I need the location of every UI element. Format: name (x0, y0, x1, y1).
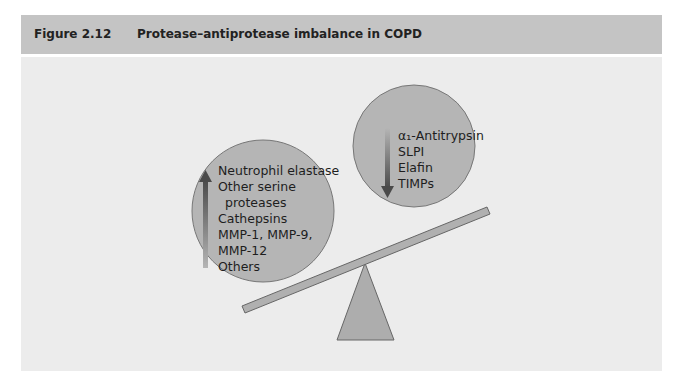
balance-diagram: Neutrophil elastase Other serine proteas… (0, 0, 679, 392)
protease-label-3: Cathepsins (218, 211, 287, 226)
protease-label-2: proteases (225, 195, 286, 210)
fulcrum-triangle (337, 263, 394, 340)
protease-label-4: MMP-1, MMP-9, (218, 227, 313, 242)
protease-label-6: Others (218, 259, 260, 274)
antiprotease-label-1: SLPI (398, 144, 424, 159)
protease-label-1: Other serine (218, 179, 296, 194)
protease-label-5: MMP-12 (218, 243, 267, 258)
protease-label-0: Neutrophil elastase (218, 163, 340, 178)
antiprotease-label-0: α₁-Antitrypsin (398, 128, 484, 143)
antiprotease-label-2: Elafin (398, 160, 433, 175)
antiprotease-label-3: TIMPs (397, 176, 434, 191)
